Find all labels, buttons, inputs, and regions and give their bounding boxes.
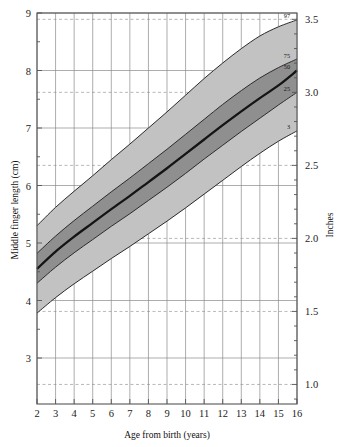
chart-svg: 2345678910111213141516 9876543 3.53.02.5… (0, 0, 346, 447)
x-tick-label: 9 (164, 408, 169, 419)
growth-chart-figure: 2345678910111213141516 9876543 3.53.02.5… (0, 0, 346, 447)
x-tick-label: 10 (180, 408, 191, 419)
y-tick-label: 4 (26, 296, 32, 307)
x-tick-label: 5 (90, 408, 95, 419)
y-tick-label: 3 (26, 353, 31, 364)
x-axis-title: Age from birth (years) (124, 430, 210, 441)
percentile-label-p50: 50 (284, 63, 290, 70)
x-tick-label: 11 (199, 408, 209, 419)
y2-tick-label: 3.0 (305, 87, 318, 98)
x-tick-label: 15 (273, 408, 284, 419)
x-tick-label: 7 (127, 408, 132, 419)
y2-tick-label: 1.0 (305, 379, 318, 390)
y2-tick-label: 2.0 (305, 233, 318, 244)
x-tick-label: 8 (146, 408, 151, 419)
x-axis-tick-labels: 2345678910111213141516 (34, 408, 302, 419)
x-tick-label: 14 (255, 408, 266, 419)
percentile-label-p97: 97 (284, 12, 290, 19)
x-tick-label: 16 (292, 408, 303, 419)
y-tick-label: 5 (26, 238, 31, 249)
x-tick-label: 12 (217, 408, 228, 419)
y-axis-title: Middle finger length (cm) (10, 161, 21, 260)
x-tick-label: 3 (53, 408, 58, 419)
percentile-label-p75: 75 (284, 52, 290, 59)
x-tick-label: 4 (72, 408, 78, 419)
percentile-label-p25: 25 (284, 85, 290, 92)
y-tick-label: 9 (26, 8, 31, 19)
y-tick-label: 7 (26, 123, 31, 134)
x-tick-label: 2 (34, 408, 39, 419)
y2-tick-label: 3.5 (305, 14, 318, 25)
y2-axis-title: Inches (325, 212, 335, 237)
y2-tick-label: 2.5 (305, 160, 318, 171)
x-tick-label: 6 (109, 408, 114, 419)
x-tick-label: 13 (236, 408, 247, 419)
y-tick-label: 8 (26, 66, 31, 77)
percentile-label-p3: 3 (287, 123, 290, 130)
y-tick-label: 6 (26, 181, 31, 192)
y2-tick-label: 1.5 (305, 306, 318, 317)
